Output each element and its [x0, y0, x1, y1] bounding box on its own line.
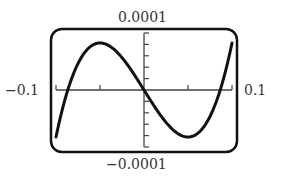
plot-area — [0, 0, 281, 177]
